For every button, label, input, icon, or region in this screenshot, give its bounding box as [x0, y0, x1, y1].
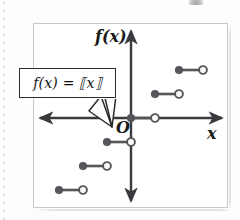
step-segment: [175, 66, 207, 74]
y-axis-label: f(x): [95, 29, 127, 45]
step-closed-endpoint: [103, 138, 111, 146]
step-segment: [103, 138, 135, 146]
step-open-endpoint: [103, 162, 111, 170]
step-closed-endpoint: [55, 186, 63, 194]
step-open-endpoint: [127, 138, 135, 146]
x-axis-label: x: [207, 126, 217, 142]
step-closed-endpoint: [151, 90, 159, 98]
step-closed-endpoint: [79, 162, 87, 170]
figure-page: f(x) x O f(x) = ⟦x⟧: [0, 0, 240, 220]
step-segment: [127, 114, 159, 122]
step-open-endpoint: [79, 186, 87, 194]
step-closed-endpoint: [175, 66, 183, 74]
step-open-endpoint: [199, 66, 207, 74]
step-segment: [79, 162, 111, 170]
function-callout-text: f(x) = ⟦x⟧: [33, 75, 102, 91]
step-segment: [55, 186, 87, 194]
step-segment: [151, 90, 183, 98]
step-open-endpoint: [175, 90, 183, 98]
function-callout-box: f(x) = ⟦x⟧: [19, 68, 116, 98]
step-open-endpoint: [151, 114, 159, 122]
origin-label: O: [116, 120, 130, 136]
